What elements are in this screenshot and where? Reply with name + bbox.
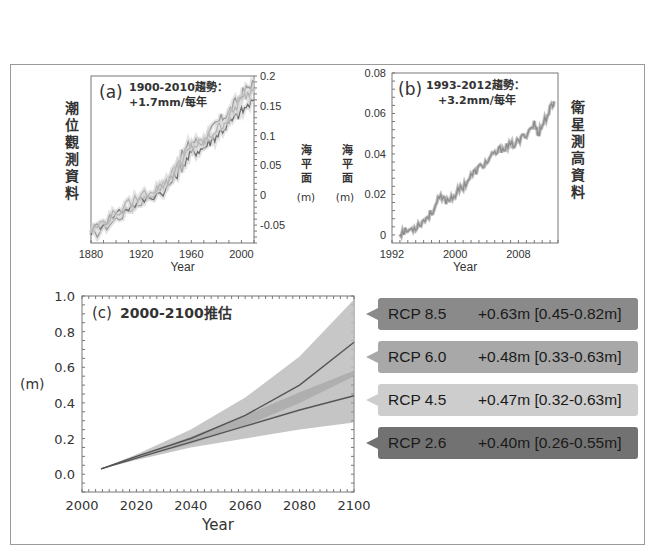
y-tick: -0.05 <box>260 219 285 231</box>
y-tick: 0.02 <box>365 188 386 200</box>
left-vertical-label: 潮位觀測資料 <box>65 100 79 201</box>
y-tick: 0.1 <box>260 130 275 142</box>
x-tick: 2100 <box>337 498 370 513</box>
svg-text:資: 資 <box>571 167 585 183</box>
x-tick: 2008 <box>506 248 530 260</box>
callout-rcp85: RCP 8.5 +0.63m [0.45-0.82m] <box>378 298 638 330</box>
y-tick: 1.0 <box>54 289 75 304</box>
y-tick: 0.4 <box>54 396 75 411</box>
right-vertical-label: 衛星測高資料 <box>570 99 585 200</box>
x-tick: 1880 <box>79 248 103 260</box>
left-axis-label: 海平面 <box>342 143 353 185</box>
panel-title: 1993-2012趨勢： <box>426 78 525 92</box>
y-tick: 0 <box>260 189 266 201</box>
x-axis-label: Year <box>170 260 194 274</box>
svg-text:星: 星 <box>571 116 585 132</box>
svg-text:潮: 潮 <box>65 100 79 116</box>
svg-text:海: 海 <box>301 143 312 157</box>
y-tick: 0.08 <box>365 67 386 79</box>
panel-b: 199220002008Year0.080.060.040.020(b)1993… <box>336 67 558 274</box>
callout-scenario: RCP 8.5 <box>388 305 478 323</box>
y-tick: 0.05 <box>260 159 281 171</box>
svg-text:資: 資 <box>65 168 79 184</box>
panel-title: 1900-2010趨勢： <box>129 80 228 94</box>
x-tick: 2000 <box>65 498 98 513</box>
callout-rcp60: RCP 6.0 +0.48m [0.33-0.63m] <box>378 341 638 373</box>
callout-rcp45: RCP 4.5 +0.47m [0.32-0.63m] <box>378 384 638 416</box>
svg-text:測: 測 <box>65 151 79 167</box>
right-axis-unit: (m) <box>297 191 315 203</box>
x-tick: 1992 <box>380 248 404 260</box>
y-tick: 0.2 <box>260 70 275 82</box>
figure-canvas: 1880192019602000Year0.20.150.10.050-0.05… <box>0 0 659 556</box>
x-tick: 2000 <box>443 248 467 260</box>
svg-text:面: 面 <box>342 172 353 185</box>
y-tick: 0.04 <box>365 148 386 160</box>
left-axis-unit: (m) <box>336 191 354 203</box>
x-tick: 2060 <box>229 498 262 513</box>
x-tick: 2020 <box>120 498 153 513</box>
x-axis-label: Year <box>453 260 477 274</box>
svg-text:測: 測 <box>571 133 585 149</box>
y-tick: 0.15 <box>260 100 281 112</box>
callout-scenario: RCP 2.6 <box>388 434 478 452</box>
x-tick: 2040 <box>174 498 207 513</box>
panel-label: (b) <box>398 79 422 99</box>
y-tick: 0.2 <box>54 432 75 447</box>
y-tick: 0.8 <box>54 325 75 340</box>
svg-text:海: 海 <box>342 143 353 157</box>
panel-title: 2000-2100推估 <box>120 305 232 321</box>
svg-text:平: 平 <box>301 158 312 171</box>
callout-scenario: RCP 6.0 <box>388 348 478 366</box>
svg-text:高: 高 <box>571 150 585 166</box>
panel-label: (c) <box>92 304 112 322</box>
panel-subtitle: +1.7mm/每年 <box>129 95 207 109</box>
callout-value: +0.47m [0.32-0.63m] <box>478 391 621 409</box>
callout-rcp26: RCP 2.6 +0.40m [0.26-0.55m] <box>378 427 638 459</box>
x-tick: 1920 <box>129 248 153 260</box>
callout-scenario: RCP 4.5 <box>388 391 478 409</box>
callout-value: +0.63m [0.45-0.82m] <box>478 305 621 323</box>
panel-a: 1880192019602000Year0.20.150.10.050-0.05… <box>79 70 315 274</box>
callout-value: +0.48m [0.33-0.63m] <box>478 348 621 366</box>
svg-text:面: 面 <box>301 172 312 185</box>
x-tick: 2000 <box>229 248 253 260</box>
panel-label: (a) <box>99 82 123 102</box>
right-axis-label: 海平面 <box>301 143 312 185</box>
svg-text:平: 平 <box>342 158 353 171</box>
x-tick: 1960 <box>179 248 203 260</box>
svg-text:位: 位 <box>65 117 79 133</box>
y-axis-label: (m) <box>20 376 45 392</box>
x-tick: 2080 <box>283 498 316 513</box>
y-tick: 0.06 <box>365 107 386 119</box>
svg-text:衛: 衛 <box>570 99 585 115</box>
callout-value: +0.40m [0.26-0.55m] <box>478 434 621 452</box>
svg-text:觀: 觀 <box>65 134 79 150</box>
svg-text:料: 料 <box>65 185 79 201</box>
panel-subtitle: +3.2mm/每年 <box>438 93 516 107</box>
y-tick: 0.6 <box>54 360 75 375</box>
svg-text:料: 料 <box>571 184 585 200</box>
panel-c: 200020202040206020802100Year1.00.80.60.4… <box>20 289 371 534</box>
x-axis-label: Year <box>201 516 235 534</box>
y-tick: 0 <box>380 229 386 241</box>
y-tick: 0.0 <box>54 467 75 482</box>
